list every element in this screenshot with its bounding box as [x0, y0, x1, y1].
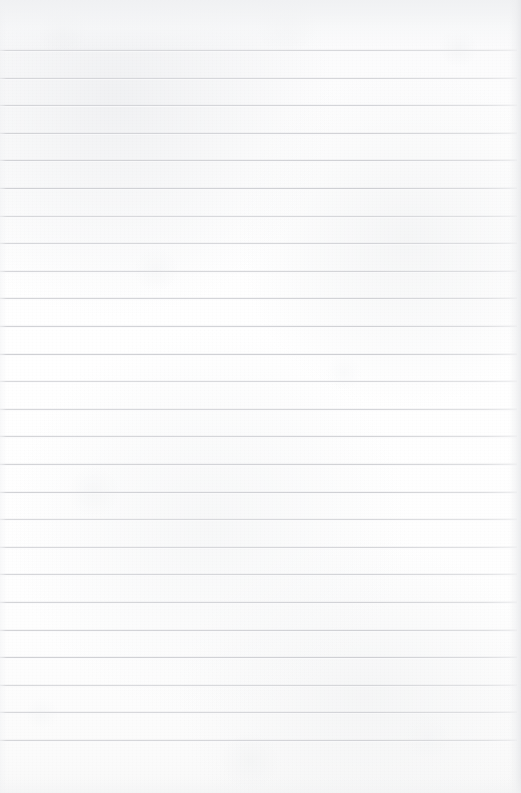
- rule-line: [0, 298, 517, 299]
- rule-line: [0, 133, 517, 134]
- rule-line: [0, 574, 517, 575]
- scanned-page: [0, 0, 521, 793]
- rule-line: [0, 712, 517, 713]
- rule-line: [0, 602, 517, 603]
- ruling-lines-layer: [0, 0, 521, 793]
- rule-line: [0, 547, 517, 548]
- rule-line: [0, 409, 517, 410]
- rule-line: [0, 243, 517, 244]
- rule-line: [0, 354, 517, 355]
- rule-line: [0, 105, 517, 106]
- rule-line: [0, 271, 517, 272]
- rule-line: [0, 78, 517, 79]
- rule-line: [0, 492, 517, 493]
- rule-line: [0, 630, 517, 631]
- rule-line: [0, 160, 517, 161]
- rule-line: [0, 464, 517, 465]
- rule-line: [0, 657, 517, 658]
- rule-line: [0, 381, 517, 382]
- rule-line: [0, 519, 517, 520]
- rule-line: [0, 326, 517, 327]
- rule-line: [0, 50, 517, 51]
- rule-line: [0, 436, 517, 437]
- rule-line: [0, 216, 517, 217]
- rule-line: [0, 188, 517, 189]
- rule-line: [0, 740, 517, 741]
- rule-line: [0, 685, 517, 686]
